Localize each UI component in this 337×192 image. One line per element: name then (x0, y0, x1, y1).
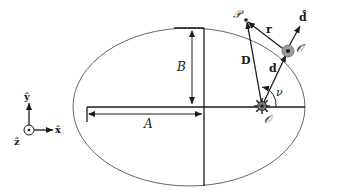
vector-D-label: D (241, 54, 251, 67)
orbit-diagram: ŷ x̂ ẑ B A ν D d r d̂ 𝒫 𝒪′ (0, 0, 337, 192)
origin-label: 𝒪 (264, 113, 274, 126)
vector-d-label: d (269, 62, 277, 75)
origin-prime-label: 𝒪′ (296, 42, 306, 55)
true-anomaly-label: ν (276, 86, 283, 99)
coordinate-axes: ŷ x̂ ẑ (14, 91, 62, 147)
semi-major-label: A (143, 117, 153, 131)
central-body-sun-icon (254, 98, 270, 114)
z-axis-label: ẑ (14, 136, 20, 147)
unit-vector-d-hat-label: d̂ (299, 10, 307, 24)
x-axis-label: x̂ (55, 124, 62, 135)
secondary-body-icon (282, 45, 294, 57)
y-axis-label: ŷ (23, 91, 31, 102)
semi-minor-label: B (176, 60, 186, 74)
point-P-marker (244, 18, 248, 22)
vector-r-label: r (266, 23, 272, 36)
point-P-label: 𝒫 (233, 8, 244, 21)
